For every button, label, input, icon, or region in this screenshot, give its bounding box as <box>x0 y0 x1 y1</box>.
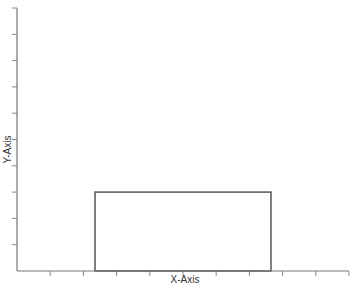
x-axis-label: X-Axis <box>171 274 200 285</box>
y-axis-label: Y-Axis <box>2 136 13 164</box>
y-ticks <box>12 8 17 245</box>
bars <box>95 192 271 271</box>
chart: X-Axis Y-Axis <box>0 0 359 288</box>
bar <box>95 192 271 271</box>
